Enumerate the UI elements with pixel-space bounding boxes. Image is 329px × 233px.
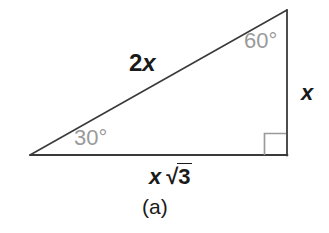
base-variable: x [149, 164, 161, 189]
angle-label-60: 60° [244, 30, 277, 52]
figure-caption: (a) [142, 196, 168, 217]
base-leg-label: x√3 [149, 166, 192, 188]
hypotenuse-label: 2x [129, 51, 156, 75]
right-angle-marker-icon [265, 134, 287, 156]
angle-label-30: 30° [74, 127, 107, 149]
square-root-group: √3 [166, 166, 191, 188]
vertical-leg-label: x [301, 82, 313, 104]
radicand-value: 3 [177, 163, 191, 189]
figure-container: 2x x x√3 60° 30° (a) [0, 0, 329, 233]
hypotenuse-variable: x [142, 49, 155, 76]
hypotenuse-coefficient: 2 [129, 49, 142, 76]
